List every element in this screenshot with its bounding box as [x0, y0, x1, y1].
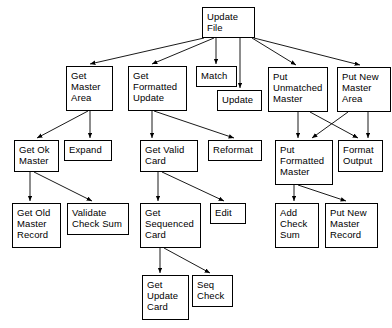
node-get-master-area[interactable]: Get Master Area: [66, 66, 113, 111]
node-add-check-sum[interactable]: Add Check Sum: [275, 203, 319, 248]
edge-put-new-master-area-to-put-formatted-master: [312, 112, 348, 138]
node-expand[interactable]: Expand: [64, 140, 112, 161]
node-match[interactable]: Match: [196, 66, 237, 87]
node-get-old-master-record[interactable]: Get Old Master Record: [12, 203, 61, 248]
node-put-unmatched-master[interactable]: Put Unmatched Master: [268, 67, 328, 112]
edge-get-valid-card-to-edit: [162, 172, 224, 201]
edge-put-formatted-master-to-put-new-master-record: [298, 185, 346, 201]
edge-get-sequenced-card-to-seq-check: [164, 248, 210, 273]
node-update-file[interactable]: Update File: [202, 7, 255, 38]
edge-get-ok-master-to-validate-check-sum: [34, 172, 92, 201]
node-put-formatted-master[interactable]: Put Formatted Master: [275, 140, 333, 185]
edge-update-file-to-get-master-area: [90, 38, 204, 64]
edge-put-unmatched-master-to-format-output: [310, 112, 358, 138]
edge-get-master-area-to-get-ok-master: [37, 111, 88, 138]
node-format-output[interactable]: Format Output: [338, 140, 383, 172]
node-get-update-card[interactable]: Get Update Card: [142, 275, 189, 320]
node-put-new-master-area[interactable]: Put New Master Area: [337, 67, 391, 112]
node-get-valid-card[interactable]: Get Valid Card: [140, 140, 198, 172]
structure-chart-diagram: Update FileGet Master AreaGet Formatted …: [0, 0, 392, 328]
edge-update-file-to-get-formatted-update: [152, 38, 214, 64]
node-put-new-master-record[interactable]: Put New Master Record: [325, 203, 378, 248]
edge-update-file-to-put-unmatched-master: [252, 38, 296, 65]
node-get-ok-master[interactable]: Get Ok Master: [14, 140, 59, 172]
node-update[interactable]: Update: [217, 90, 262, 111]
node-validate-check-sum[interactable]: Validate Check Sum: [67, 203, 129, 235]
node-seq-check[interactable]: Seq Check: [192, 275, 233, 307]
edge-update-file-to-put-new-master-area: [254, 38, 360, 65]
node-get-sequenced-card[interactable]: Get Sequenced Card: [140, 203, 201, 248]
node-reformat[interactable]: Reformat: [208, 140, 262, 161]
node-get-formatted-update[interactable]: Get Formatted Update: [128, 66, 187, 111]
edge-get-formatted-update-to-reformat: [154, 111, 234, 138]
node-edit[interactable]: Edit: [210, 203, 246, 224]
